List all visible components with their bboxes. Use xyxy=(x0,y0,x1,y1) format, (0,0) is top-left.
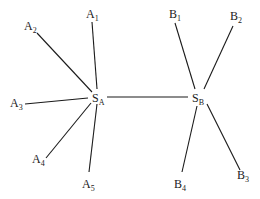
edge-b3-sb xyxy=(207,104,240,170)
node-label-b4: B4 xyxy=(174,177,186,193)
network-diagram: SASBA1A2A3A4A5B1B2B3B4 xyxy=(0,0,260,199)
hub-label-sb: SB xyxy=(192,91,204,107)
node-label-a3: A3 xyxy=(10,96,23,112)
edge-b2-sb xyxy=(204,26,233,89)
edge-a1-sa xyxy=(92,22,97,89)
node-label-a5: A5 xyxy=(82,177,95,193)
node-label-a4: A4 xyxy=(32,152,45,168)
node-label-b1: B1 xyxy=(169,7,181,23)
hub-label-sa: SA xyxy=(92,91,105,107)
node-label-a2: A2 xyxy=(24,19,37,35)
node-label-a1: A1 xyxy=(86,7,99,23)
edges-group xyxy=(25,22,240,172)
node-label-b3: B3 xyxy=(237,168,249,184)
edge-b1-sb xyxy=(175,23,195,89)
edge-a3-sa xyxy=(25,98,88,104)
edge-b4-sb xyxy=(182,106,197,172)
edge-a5-sa xyxy=(89,104,97,172)
node-label-b2: B2 xyxy=(230,9,242,25)
edge-a2-sa xyxy=(37,33,92,92)
edge-a4-sa xyxy=(46,103,91,158)
labels-group: SASBA1A2A3A4A5B1B2B3B4 xyxy=(10,7,249,193)
